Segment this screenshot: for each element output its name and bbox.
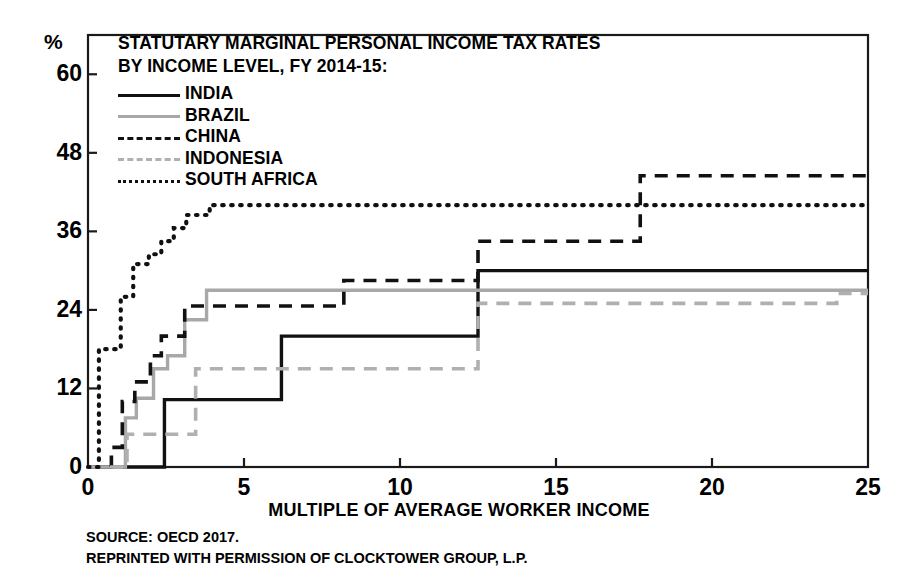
chart-title-line2: BY INCOME LEVEL, FY 2014-15: <box>118 55 600 78</box>
legend-swatch-icon <box>118 109 180 121</box>
source-line: SOURCE: OECD 2017. <box>86 527 527 548</box>
chart-title-line1: STATUTARY MARGINAL PERSONAL INCOME TAX R… <box>118 32 600 55</box>
chart-title: STATUTARY MARGINAL PERSONAL INCOME TAX R… <box>118 32 600 79</box>
x-tick-label-0: 0 <box>82 474 95 501</box>
x-tick-label-10: 10 <box>387 474 413 501</box>
legend-label: SOUTH AFRICA <box>185 171 318 189</box>
legend-label: CHINA <box>185 128 241 146</box>
x-tick-label-5: 5 <box>238 474 251 501</box>
legend-swatch-icon <box>118 152 180 164</box>
legend-label: BRAZIL <box>185 107 250 125</box>
x-tick-label-20: 20 <box>699 474 725 501</box>
figure-footer: SOURCE: OECD 2017. REPRINTED WITH PERMIS… <box>86 527 527 568</box>
legend-item-brazil: BRAZIL <box>118 105 318 127</box>
chart-legend: INDIABRAZILCHINAINDONESIASOUTH AFRICA <box>118 83 318 191</box>
legend-swatch-icon <box>118 88 180 100</box>
legend-label: INDIA <box>185 85 233 103</box>
legend-item-china: CHINA <box>118 126 318 148</box>
legend-item-india: INDIA <box>118 83 318 105</box>
legend-item-south-africa: SOUTH AFRICA <box>118 169 318 191</box>
x-tick-label-15: 15 <box>543 474 569 501</box>
x-axis-title: MULTIPLE OF AVERAGE WORKER INCOME <box>0 500 918 521</box>
chart-figure: % 01224364860 STATUTARY MARGINAL PERSONA… <box>0 0 918 582</box>
permission-line: REPRINTED WITH PERMISSION OF CLOCKTOWER … <box>86 548 527 569</box>
x-tick-label-25: 25 <box>855 474 881 501</box>
legend-swatch-icon <box>118 131 180 143</box>
legend-swatch-icon <box>118 174 180 186</box>
legend-label: INDONESIA <box>185 150 283 168</box>
legend-item-indonesia: INDONESIA <box>118 148 318 170</box>
